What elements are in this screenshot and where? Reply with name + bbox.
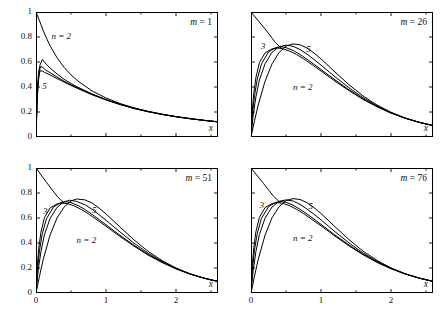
plot-panel-76: m = 76x35n = 2 xyxy=(251,168,433,293)
y-tick-label: 0.4 xyxy=(2,238,32,247)
plot-panel-51: m = 51x35n = 2 xyxy=(36,168,218,293)
curve-annotation: 3 xyxy=(43,206,48,216)
x-tick-label: 1 xyxy=(309,296,333,305)
y-tick-label: 0.6 xyxy=(2,213,32,222)
x-axis-name: x xyxy=(424,123,428,133)
plot-panel-26: m = 26x35n = 2 xyxy=(251,12,433,137)
y-tick-label: 0.2 xyxy=(2,263,32,272)
panel-label-m: m = 26 xyxy=(401,17,427,27)
panel-label-m: m = 51 xyxy=(186,173,212,183)
curve-annotation: n = 2 xyxy=(77,235,97,245)
figure-canvas: 00.20.40.60.81m = 1xn = 25m = 26x35n = 2… xyxy=(0,0,445,312)
y-tick-label: 0 xyxy=(2,132,32,141)
curve-annotation: n = 2 xyxy=(51,31,71,41)
curve-annotation: n = 2 xyxy=(293,82,313,92)
curve-annotation: 5 xyxy=(308,201,313,211)
curve-annotation: 5 xyxy=(306,44,311,54)
y-tick-label: 1 xyxy=(2,163,32,172)
curve-annotation: n = 2 xyxy=(293,233,313,243)
x-axis-name: x xyxy=(424,279,428,289)
curve-annotation: 3 xyxy=(259,200,264,210)
panel-label-m: m = 76 xyxy=(401,173,427,183)
plot-area-26 xyxy=(251,12,433,137)
x-axis-name: x xyxy=(209,279,213,289)
y-tick-label: 1 xyxy=(2,7,32,16)
x-tick-label: 2 xyxy=(379,296,403,305)
curve-annotation: 5 xyxy=(42,81,47,91)
curve-annotation: 3 xyxy=(261,41,266,51)
y-tick-label: 0.2 xyxy=(2,107,32,116)
y-tick-label: 0.8 xyxy=(2,32,32,41)
x-tick-label: 0 xyxy=(239,296,263,305)
panel-label-m: m = 1 xyxy=(190,17,212,27)
plot-area-51 xyxy=(36,168,218,293)
plot-panel-1: m = 1xn = 25 xyxy=(36,12,218,137)
x-tick-label: 0 xyxy=(24,296,48,305)
x-axis-name: x xyxy=(209,123,213,133)
plot-area-76 xyxy=(251,168,433,293)
x-tick-label: 1 xyxy=(94,296,118,305)
y-tick-label: 0.8 xyxy=(2,188,32,197)
y-tick-label: 0.6 xyxy=(2,57,32,66)
curve-annotation: 5 xyxy=(92,205,97,215)
y-tick-label: 0.4 xyxy=(2,82,32,91)
x-tick-label: 2 xyxy=(164,296,188,305)
